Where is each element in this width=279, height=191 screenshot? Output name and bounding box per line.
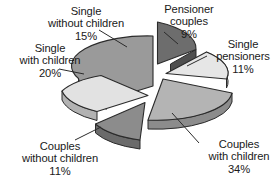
slice-label-line2: without children <box>30 17 142 29</box>
slice-label-line2: without children <box>6 152 114 164</box>
slice-label-pensioner-couples: Pensioner couples 9% <box>150 3 228 40</box>
slice-label-couples-with-children: Couples with children 34% <box>200 138 278 175</box>
slice-label-line2: with children <box>200 150 278 162</box>
slice-value: 11% <box>6 165 114 177</box>
slice-value: 11% <box>208 63 278 75</box>
slice-label-line1: Pensioner <box>150 3 228 15</box>
slice-value: 20% <box>4 67 96 79</box>
slice-label-line2: with children <box>4 54 96 66</box>
slice-label-line2: pensioners <box>208 50 278 62</box>
slice-label-couples-without-children: Couples without children 11% <box>6 140 114 177</box>
slice-label-single-with-children: Single with children 20% <box>4 42 96 79</box>
slice-label-line1: Couples <box>200 138 278 150</box>
slice-label-line1: Couples <box>6 140 114 152</box>
slice-value: 34% <box>200 163 278 175</box>
slice-label-line2: couples <box>150 15 228 27</box>
pie-chart-figure: Single without children 15% Single with … <box>0 0 279 191</box>
slice-label-single-pensioners: Single pensioners 11% <box>208 38 278 75</box>
slice-label-line1: Single <box>4 42 96 54</box>
slice-value: 9% <box>150 28 228 40</box>
slice-label-single-without-children: Single without children 15% <box>30 5 142 42</box>
slice-label-line1: Single <box>30 5 142 17</box>
slice-value: 15% <box>30 30 142 42</box>
